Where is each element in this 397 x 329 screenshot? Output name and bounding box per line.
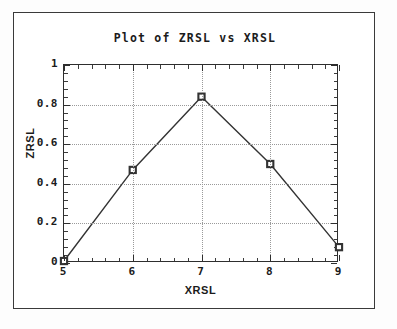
y-axis-minor-tick-right — [334, 152, 338, 153]
x-axis-title: XRSL — [63, 284, 338, 296]
chart-title: Plot of ZRSL vs XRSL — [14, 31, 376, 45]
y-axis-tick-right — [331, 184, 337, 185]
x-axis-minor-tick — [147, 258, 148, 262]
y-axis-minor-tick-right — [334, 247, 338, 248]
x-axis-minor-tick-top — [119, 65, 120, 69]
x-axis-tick-label: 9 — [335, 265, 342, 278]
y-axis-minor-tick-right — [334, 81, 338, 82]
y-axis-tick-right — [331, 144, 337, 145]
x-axis-minor-tick-top — [78, 65, 79, 69]
y-axis-minor-tick — [64, 152, 68, 153]
figure-frame: Plot of ZRSL vs XRSL 00.20.40.60.81 5678… — [13, 12, 375, 309]
y-axis-tick-label: 0 — [51, 255, 58, 268]
x-axis-minor-tick — [325, 258, 326, 262]
x-axis-tick — [270, 255, 271, 261]
y-axis-minor-tick — [64, 200, 68, 201]
x-axis-tick — [339, 255, 340, 261]
x-axis-minor-tick-top — [92, 65, 93, 69]
y-axis-minor-tick-right — [334, 200, 338, 201]
y-axis-minor-tick — [64, 231, 68, 232]
x-axis-tick-top — [64, 65, 65, 71]
x-axis-minor-tick-top — [312, 65, 313, 69]
data-point-marker — [267, 161, 273, 167]
y-axis-minor-tick — [64, 215, 68, 216]
x-axis-tick-top — [339, 65, 340, 71]
y-axis-minor-tick-right — [334, 215, 338, 216]
data-point-marker — [198, 94, 204, 100]
y-axis-minor-tick — [64, 247, 68, 248]
y-axis-tick-right — [331, 263, 337, 264]
x-axis-tick-label: 8 — [266, 265, 273, 278]
y-axis-minor-tick-right — [334, 208, 338, 209]
y-axis-tick — [64, 263, 70, 264]
y-axis-minor-tick — [64, 239, 68, 240]
x-axis-tick — [202, 255, 203, 261]
x-axis-minor-tick — [188, 258, 189, 262]
y-axis-minor-tick — [64, 168, 68, 169]
y-axis-minor-tick — [64, 81, 68, 82]
x-axis-minor-tick-top — [215, 65, 216, 69]
x-axis-minor-tick — [284, 258, 285, 262]
x-axis-minor-tick — [215, 258, 216, 262]
y-axis-minor-tick-right — [334, 113, 338, 114]
x-axis-tick — [64, 255, 65, 261]
series-polyline — [64, 97, 339, 261]
x-axis-minor-tick-top — [160, 65, 161, 69]
x-axis-minor-tick-top — [188, 65, 189, 69]
y-axis-minor-tick-right — [334, 231, 338, 232]
y-axis-minor-tick-right — [334, 97, 338, 98]
y-axis-minor-tick — [64, 89, 68, 90]
y-axis-minor-tick-right — [334, 239, 338, 240]
y-axis-tick-right — [331, 105, 337, 106]
y-axis-minor-tick-right — [334, 73, 338, 74]
x-axis-minor-tick — [229, 258, 230, 262]
y-axis-minor-tick-right — [334, 192, 338, 193]
x-axis-minor-tick-top — [325, 65, 326, 69]
x-axis-minor-tick — [257, 258, 258, 262]
y-axis-minor-tick — [64, 128, 68, 129]
x-axis-minor-tick-top — [105, 65, 106, 69]
x-axis-tick — [133, 255, 134, 261]
x-axis-minor-tick — [298, 258, 299, 262]
y-axis-title: ZRSL — [24, 113, 36, 173]
x-axis-tick-top — [133, 65, 134, 71]
y-axis-tick-label: 1 — [51, 57, 58, 70]
y-axis-minor-tick — [64, 113, 68, 114]
y-axis-tick-label: 0.4 — [37, 176, 58, 189]
x-axis-minor-tick — [174, 258, 175, 262]
y-axis-tick-right — [331, 65, 337, 66]
x-axis-minor-tick-top — [257, 65, 258, 69]
y-axis-tick-label: 0.6 — [37, 136, 58, 149]
x-axis-tick-top — [202, 65, 203, 71]
data-point-marker — [130, 167, 136, 173]
y-axis-minor-tick-right — [334, 120, 338, 121]
y-axis-tick — [64, 184, 70, 185]
x-axis-minor-tick — [243, 258, 244, 262]
y-axis-minor-tick-right — [334, 255, 338, 256]
y-axis-minor-tick-right — [334, 128, 338, 129]
y-axis-minor-tick — [64, 120, 68, 121]
y-axis-minor-tick — [64, 73, 68, 74]
y-axis-minor-tick — [64, 160, 68, 161]
y-axis-tick — [64, 144, 70, 145]
x-axis-minor-tick-top — [284, 65, 285, 69]
x-axis-minor-tick-top — [229, 65, 230, 69]
y-axis-minor-tick-right — [334, 176, 338, 177]
y-axis-minor-tick-right — [334, 136, 338, 137]
x-axis-tick-label: 6 — [128, 265, 135, 278]
y-axis-minor-tick-right — [334, 160, 338, 161]
x-axis-minor-tick-top — [174, 65, 175, 69]
x-axis-tick-label: 5 — [60, 265, 67, 278]
y-axis-tick-label: 0.8 — [37, 97, 58, 110]
y-axis-minor-tick — [64, 208, 68, 209]
x-axis-tick-label: 7 — [197, 265, 204, 278]
data-series-line — [64, 65, 339, 263]
x-axis-minor-tick-top — [243, 65, 244, 69]
y-axis-tick — [64, 105, 70, 106]
y-axis-minor-tick — [64, 136, 68, 137]
x-axis-tick-top — [270, 65, 271, 71]
y-axis-tick-right — [331, 223, 337, 224]
x-axis-tick-labels: 56789 — [63, 265, 338, 283]
y-axis-tick-label: 0.2 — [37, 215, 58, 228]
x-axis-minor-tick — [92, 258, 93, 262]
